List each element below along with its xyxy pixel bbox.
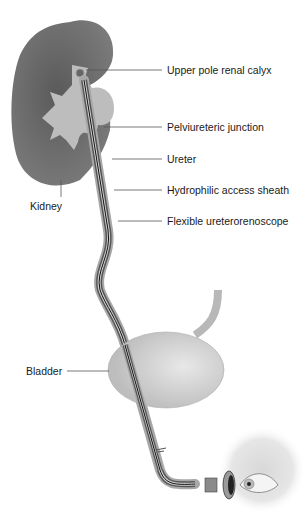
label-bladder: Bladder [26,365,62,377]
ureteroscopy-illustration [0,0,306,514]
label-ureter: Ureter [167,153,196,165]
label-pelviureteric-junction: Pelviureteric junction [167,121,264,133]
bladder [108,332,224,408]
label-flexible-ureterorenoscope: Flexible ureterorenoscope [167,215,288,227]
label-hydrophilic-access-sheath: Hydrophilic access sheath [167,184,289,196]
label-kidney: Kidney [30,200,62,212]
eyepiece [205,478,217,492]
label-upper-pole-renal-calyx: Upper pole renal calyx [167,64,271,76]
eye-glow [218,426,306,514]
